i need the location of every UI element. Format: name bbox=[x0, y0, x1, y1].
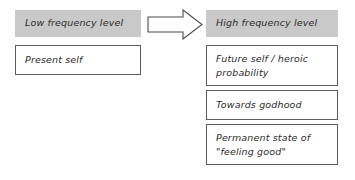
box-towards-godhood: Towards godhood bbox=[206, 90, 338, 120]
box-present-self-label: Present self bbox=[25, 53, 83, 67]
box-present-self: Present self bbox=[15, 45, 141, 75]
column-header-low-frequency: Low frequency level bbox=[15, 10, 141, 37]
column-header-high-frequency-label: High frequency level bbox=[216, 18, 317, 28]
box-future-self: Future self / heroic probability bbox=[206, 45, 338, 86]
box-towards-godhood-label: Towards godhood bbox=[216, 98, 302, 112]
right-block-arrow-icon bbox=[147, 9, 203, 40]
box-permanent-state: Permanent state of "feeling good" bbox=[206, 124, 338, 165]
box-future-self-label: Future self / heroic probability bbox=[216, 52, 332, 80]
column-header-high-frequency: High frequency level bbox=[206, 10, 338, 37]
column-header-low-frequency-label: Low frequency level bbox=[25, 18, 123, 28]
diagram-canvas: Low frequency level Present self High fr… bbox=[0, 0, 355, 180]
box-permanent-state-label: Permanent state of "feeling good" bbox=[216, 131, 332, 159]
